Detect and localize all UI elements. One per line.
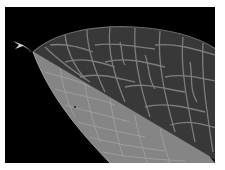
leaf-photo — [5, 7, 215, 163]
leaf-illustration — [5, 7, 215, 163]
